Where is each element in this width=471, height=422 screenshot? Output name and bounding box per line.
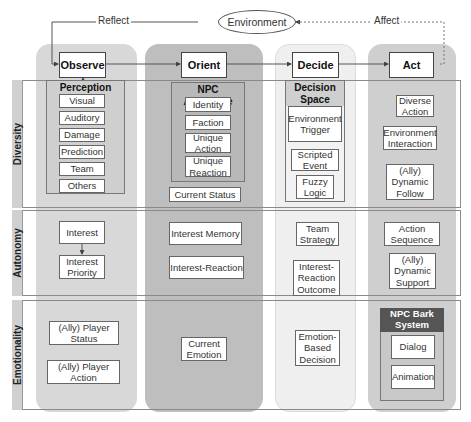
decision-fuzzy-logic: Fuzzy Logic xyxy=(296,175,334,199)
autonomy-interest-memory: Interest Memory xyxy=(169,222,242,245)
emotion-based-decision: Emotion-Based Decision xyxy=(295,330,340,366)
perception-team: Team xyxy=(59,162,105,176)
bark-dialog: Dialog xyxy=(391,335,435,359)
emotion-ally-player-action: (Ally) Player Action xyxy=(47,360,120,384)
orient-header: Orient xyxy=(181,52,227,78)
autonomy-action-sequence: Action Sequence xyxy=(384,222,440,246)
environment-label: Environment xyxy=(228,16,287,28)
perception-auditory: Auditory xyxy=(59,111,105,125)
perception-visual: Visual xyxy=(59,94,105,108)
archetype-faction: Faction xyxy=(185,115,231,130)
decide-header: Decide xyxy=(292,52,339,78)
observe-header: Observe xyxy=(59,52,106,78)
perception-others: Others xyxy=(59,179,105,193)
perception-damage: Damage xyxy=(59,128,105,142)
autonomy-interest-priority: Interest Priority xyxy=(59,255,105,279)
autonomy-team-strategy: Team Strategy xyxy=(296,222,339,246)
reflect-label: Reflect xyxy=(96,15,131,26)
emotion-current-emotion: Current Emotion xyxy=(181,337,227,361)
autonomy-ally-dynamic-support: (Ally) Dynamic Support xyxy=(389,253,436,289)
emotion-ally-player-status: (Ally) Player Status xyxy=(49,321,119,345)
environment-node: Environment xyxy=(218,10,296,34)
act-environment-interaction: Environment Interaction xyxy=(383,126,437,150)
npc-bark-system-title: NPC Bark System xyxy=(380,308,444,332)
act-ally-dynamic-follow: (Ally) Dynamic Follow xyxy=(386,164,434,200)
archetype-unique-action: Unique Action xyxy=(185,133,231,153)
autonomy-interest-reaction: Interest-Reaction xyxy=(169,256,244,279)
autonomy-interest-reaction-outcome: Interest-Reaction Outcome xyxy=(293,260,340,296)
bark-animation: Animation xyxy=(391,365,435,389)
decision-environment-trigger: Environment Trigger xyxy=(288,106,342,142)
archetype-unique-reaction: Unique Reaction xyxy=(185,156,231,177)
archetype-identity: Identity xyxy=(185,97,231,112)
affect-label: Affect xyxy=(372,15,401,26)
current-status: Current Status xyxy=(169,187,241,202)
act-header: Act xyxy=(389,52,434,78)
perception-prediction: Prediction xyxy=(59,145,105,159)
autonomy-interest: Interest xyxy=(59,221,105,244)
decision-scripted-event: Scripted Event xyxy=(291,149,339,171)
decision-space-title: Decision Space xyxy=(286,81,344,106)
perception-title: Perception xyxy=(47,82,124,94)
act-diverse-action: Diverse Action xyxy=(396,95,434,117)
